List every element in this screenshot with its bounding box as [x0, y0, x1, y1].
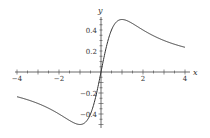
x-axis: [15, 70, 190, 75]
x-tick-label: 2: [141, 75, 145, 83]
x-tick-label: 4: [183, 75, 188, 83]
y-axis-label: y: [97, 6, 103, 15]
chart: −4−224 0.40.2−0.2−0.4 x y: [0, 0, 210, 138]
y-tick-label: −0.2: [80, 90, 97, 98]
y-tick-label: 0.4: [86, 27, 98, 35]
x-tick-label: −2: [54, 75, 64, 83]
x-axis-label: x: [193, 68, 198, 77]
x-tick-label: −4: [12, 75, 23, 83]
y-tick-label: 0.2: [86, 48, 97, 56]
y-tick-labels: 0.40.2−0.2−0.4: [80, 27, 98, 119]
